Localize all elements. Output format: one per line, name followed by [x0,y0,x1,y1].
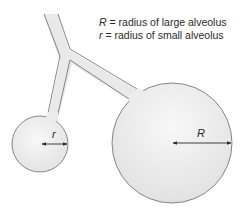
legend: R = radius of large alveolus r = radius … [99,16,227,42]
small-radius-label: r [52,128,56,140]
legend-text: = radius of small alveolus [103,29,224,41]
legend-text: = radius of large alveolus [107,16,227,28]
large-radius-label: R [197,127,205,139]
legend-symbol: R [99,16,107,28]
legend-item-large: R = radius of large alveolus [99,16,227,29]
legend-item-small: r = radius of small alveolus [99,29,227,42]
